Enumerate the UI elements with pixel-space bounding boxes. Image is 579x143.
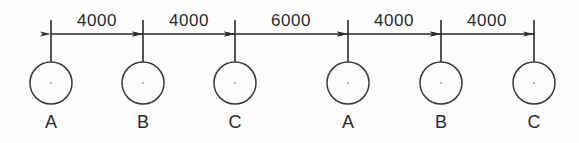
column-label-b-1: B	[137, 112, 149, 132]
dimension-text-b-c-2: 4000	[467, 11, 507, 30]
column-label-a-1: A	[45, 112, 57, 132]
center-mark-icon-b-2	[440, 82, 442, 84]
column-label-a-2: A	[342, 112, 354, 132]
column-label-c-1: C	[229, 112, 242, 132]
dimension-text-c-a: 6000	[271, 11, 311, 30]
column-label-b-2: B	[435, 112, 447, 132]
dimension-text-b-c-1: 4000	[169, 11, 209, 30]
column-label-c-2: C	[528, 112, 541, 132]
center-mark-icon-a-1	[50, 82, 52, 84]
dimension-text-a-b-1: 4000	[77, 11, 117, 30]
technical-drawing-canvas: 4000 4000 6000 4000 4000	[0, 0, 579, 143]
center-mark-icon-b-1	[142, 82, 144, 84]
dimension-text-a-b-2: 4000	[374, 11, 414, 30]
center-mark-icon-a-2	[347, 82, 349, 84]
center-mark-icon-c-2	[533, 82, 535, 84]
column-grid-drawing: 4000 4000 6000 4000 4000	[0, 0, 579, 143]
center-mark-icon-c-1	[234, 82, 236, 84]
